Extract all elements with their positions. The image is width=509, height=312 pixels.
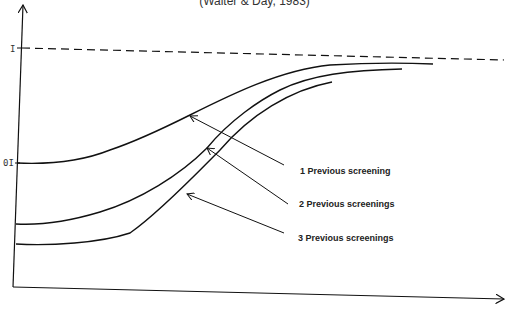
reference-line-I: [22, 48, 504, 60]
label-1-previous: 1 Previous screening: [300, 166, 391, 176]
x-axis: [13, 287, 504, 299]
pointer-1: [190, 116, 284, 165]
label-2-previous: 2 Previous screenings: [299, 199, 395, 209]
pointer-3: [187, 194, 284, 233]
incidence-diagram: I 0I 1 Previous screening 2 Previous scr…: [0, 0, 509, 312]
y-tick-0I: 0I: [3, 158, 14, 168]
curve-1-previous: [17, 63, 433, 163]
y-tick-I: I: [10, 44, 15, 54]
pointer-2: [207, 148, 288, 204]
label-3-previous: 3 Previous screenings: [298, 233, 394, 243]
